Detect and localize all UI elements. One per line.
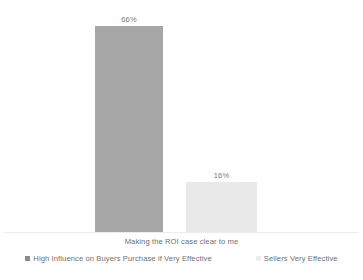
bar-sellers-very-effective[interactable] <box>186 182 257 232</box>
legend-item-high-influence[interactable]: High Influence on Buyers Purchase if Ver… <box>25 254 211 263</box>
bar-chart: 66% 16% Making the ROI case clear to me … <box>0 0 363 280</box>
legend-square-icon-high-influence <box>25 256 30 261</box>
bar-value-label-sellers: 16% <box>186 171 257 180</box>
category-axis-label: Making the ROI case clear to me <box>0 237 363 246</box>
legend-label-sellers: Sellers Very Effective <box>264 254 338 263</box>
bar-value-label-high-influence: 66% <box>95 15 163 24</box>
chart-legend: High Influence on Buyers Purchase if Ver… <box>0 254 363 263</box>
plot-area: 66% 16% <box>0 0 363 233</box>
bar-high-influence[interactable] <box>95 26 163 232</box>
legend-label-high-influence: High Influence on Buyers Purchase if Ver… <box>33 254 211 263</box>
category-axis-line <box>4 232 359 233</box>
legend-square-icon-sellers <box>256 256 261 261</box>
legend-item-sellers-very-effective[interactable]: Sellers Very Effective <box>256 254 338 263</box>
